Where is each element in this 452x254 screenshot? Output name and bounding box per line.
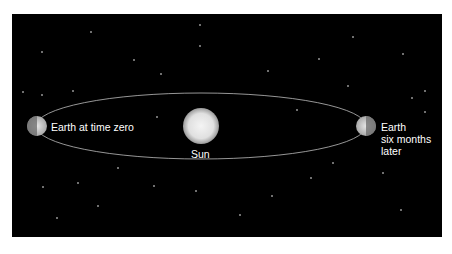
sun-icon xyxy=(183,108,219,144)
diagram-panel: Earth at time zero Sun Earth six months … xyxy=(12,14,442,237)
star xyxy=(382,172,384,174)
star xyxy=(424,90,426,92)
star xyxy=(56,217,58,219)
star xyxy=(72,90,74,92)
earth-time-zero-icon xyxy=(27,116,47,136)
star xyxy=(133,59,135,61)
star xyxy=(117,167,119,169)
star xyxy=(199,24,201,26)
star xyxy=(41,51,43,53)
star xyxy=(296,109,298,111)
sun-label: Sun xyxy=(191,148,210,160)
earth-time-zero-label: Earth at time zero xyxy=(51,121,134,133)
star xyxy=(97,205,99,207)
star xyxy=(42,186,44,188)
star xyxy=(22,91,24,93)
star xyxy=(318,58,320,60)
star xyxy=(332,162,334,164)
star xyxy=(310,177,312,179)
earth-six-months-later-icon xyxy=(356,116,376,136)
star xyxy=(347,85,349,87)
star xyxy=(271,195,273,197)
star xyxy=(411,97,413,99)
star xyxy=(400,209,402,211)
star xyxy=(199,45,201,47)
star xyxy=(239,214,241,216)
star xyxy=(402,53,404,55)
star xyxy=(160,73,162,75)
star xyxy=(77,182,79,184)
star xyxy=(195,190,197,192)
star xyxy=(156,116,158,118)
star xyxy=(352,36,354,38)
star xyxy=(267,70,269,72)
earth-six-months-later-label: Earth six months later xyxy=(381,121,431,157)
star xyxy=(424,111,426,113)
star xyxy=(90,31,92,33)
star xyxy=(153,185,155,187)
star xyxy=(41,94,43,96)
